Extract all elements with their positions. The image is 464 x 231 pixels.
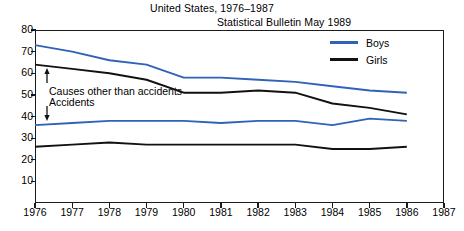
arrow-up-icon — [44, 68, 49, 83]
chart-container: United States, 1976–1987 Statistical Bul… — [0, 0, 464, 231]
arrow-down-icon — [44, 106, 49, 121]
annotation-arrow-layer — [0, 0, 464, 231]
